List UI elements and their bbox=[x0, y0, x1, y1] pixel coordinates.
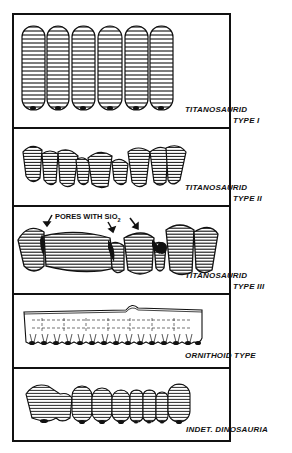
label-leader-1 bbox=[229, 115, 231, 127]
label-leader-3 bbox=[229, 281, 231, 293]
label-ornithoid-type: ORNITHOID TYPE bbox=[185, 351, 256, 361]
specimen-titanosaurid-type-2 bbox=[20, 142, 188, 190]
label-titanosaurid-type-2-line2: TYPE II bbox=[233, 194, 262, 204]
label-leader-2 bbox=[229, 193, 231, 205]
specimen-indet-dinosauria bbox=[24, 382, 196, 424]
divider-4 bbox=[12, 367, 231, 369]
label-indet-dinosauria: INDET. DINOSAURIA bbox=[186, 425, 268, 435]
label-titanosaurid-type-3-line2: TYPE III bbox=[233, 282, 264, 292]
divider-2 bbox=[12, 205, 231, 207]
specimen-titanosaurid-type-3 bbox=[16, 220, 220, 278]
label-titanosaurid-type-2-line1: TITANOSAURID bbox=[185, 183, 247, 193]
label-titanosaurid-type-3-line1: TITANOSAURID bbox=[185, 271, 247, 281]
label-titanosaurid-type-1-line2: TYPE I bbox=[233, 116, 260, 126]
label-titanosaurid-type-1-line1: TITANOSAURID bbox=[185, 105, 247, 115]
divider-1 bbox=[12, 127, 231, 129]
specimen-ornithoid-type bbox=[22, 302, 204, 346]
divider-3 bbox=[12, 293, 231, 295]
specimen-titanosaurid-type-1 bbox=[20, 24, 175, 112]
